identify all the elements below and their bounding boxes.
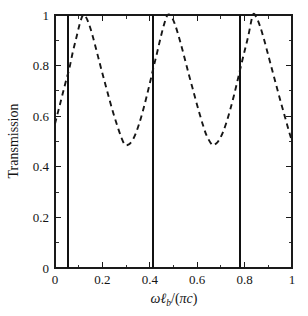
x-tick-label: 1 (289, 272, 296, 287)
x-axis-title-close-paren: ) (193, 291, 198, 307)
x-tick-label: 0.6 (189, 272, 206, 287)
y-tick-label: 1 (43, 8, 50, 23)
transmission-curve (55, 14, 292, 146)
x-tick-label: 0.4 (142, 272, 159, 287)
x-tick-label: 0 (52, 272, 59, 287)
figure-container: 00.20.40.60.81 00.20.40.60.81 Transmissi… (0, 0, 308, 316)
y-tick-label: 0.6 (33, 109, 50, 124)
y-axis-tick-labels: 00.20.40.60.81 (33, 8, 50, 276)
axes-frame (55, 15, 292, 268)
transmission-chart: 00.20.40.60.81 00.20.40.60.81 Transmissi… (0, 0, 308, 316)
x-tick-label: 0.2 (94, 272, 110, 287)
x-axis-title: ωℓb/(πc) (151, 291, 198, 308)
plot-frame (55, 15, 292, 268)
y-tick-label: 0.8 (33, 58, 49, 73)
x-axis-title-omega: ω (151, 291, 161, 306)
data-series-curves (55, 14, 292, 146)
y-tick-label: 0.2 (33, 210, 49, 225)
x-axis-tick-labels: 00.20.40.60.81 (52, 272, 296, 287)
resonance-vertical-lines (68, 15, 240, 268)
y-tick-label: 0.4 (33, 159, 50, 174)
axis-major-ticks (55, 15, 292, 268)
svg-text:ωℓb/(πc): ωℓb/(πc) (151, 291, 198, 308)
x-tick-label: 0.8 (236, 272, 252, 287)
y-tick-label: 0 (43, 261, 50, 276)
x-axis-title-slash-open: /( (171, 291, 180, 307)
y-axis-title: Transmission (6, 104, 21, 179)
axis-minor-ticks (55, 15, 292, 268)
